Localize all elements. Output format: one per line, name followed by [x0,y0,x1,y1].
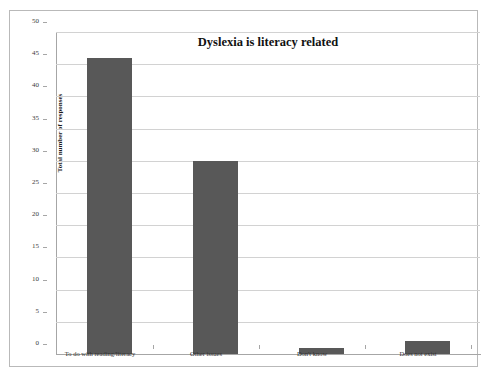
bar[interactable] [87,58,132,354]
x-tick-mark [365,345,366,349]
y-tick-mark [43,344,47,345]
chart-frame: Dyslexia is literacy related Total numbe… [9,10,478,367]
y-tick-label: 25 [13,179,39,186]
y-tick-label: 30 [13,147,39,154]
y-tick-label: 10 [13,276,39,283]
y-tick-mark [43,119,47,120]
y-tick-mark [43,54,47,55]
y-tick-label: 50 [13,18,39,25]
x-tick-label: Does not exist [358,350,478,358]
y-tick-mark [43,22,47,23]
y-tick-label: 20 [13,211,39,218]
chart-figure: Dyslexia is literacy related Total numbe… [0,0,491,379]
y-tick-mark [43,215,47,216]
y-tick-label: 15 [13,243,39,250]
y-tick-mark [43,183,47,184]
y-tick-mark [43,312,47,313]
y-tick-mark [43,151,47,152]
x-tick-label: Don't know [252,350,372,358]
x-tick-mark [259,345,260,349]
y-tick-mark [43,280,47,281]
x-tick-mark [471,345,472,349]
bars-layer [56,32,480,354]
bar[interactable] [193,161,238,354]
x-tick-mark [153,345,154,349]
x-tick-label: Other issues [146,350,266,358]
x-tick-label: To do with reading/literacy [40,350,160,358]
y-tick-label: 5 [13,308,39,315]
y-tick-label: 40 [13,82,39,89]
y-tick-label: 35 [13,115,39,122]
y-tick-mark [43,86,47,87]
y-tick-label: 0 [13,340,39,347]
y-tick-mark [43,247,47,248]
y-tick-label: 45 [13,50,39,57]
